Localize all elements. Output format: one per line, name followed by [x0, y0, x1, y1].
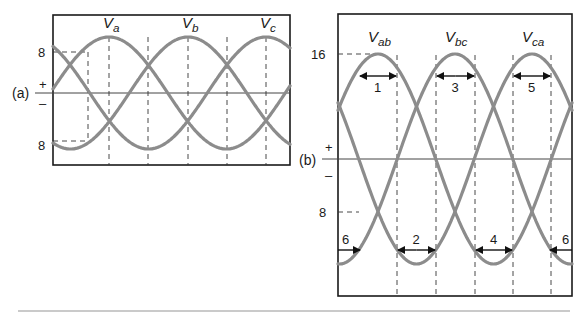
diagram-b-line-voltages: 1352466 (b) + – 16 8 VabVbcVca	[299, 14, 572, 296]
diagram-a-phase-voltages: (a) + – 8 8 VaVbVc	[12, 14, 290, 165]
label-vbc: Vbc	[445, 28, 468, 48]
svg-text:6: 6	[562, 232, 569, 247]
diagram-b-mid-value: 8	[319, 205, 326, 220]
interval-5: 5	[514, 76, 550, 95]
interval-2: 2	[398, 232, 435, 250]
interval-3: 3	[437, 76, 474, 95]
diagram-b-wave-labels: VabVbcVca	[368, 28, 545, 48]
interval-1: 1	[360, 76, 396, 95]
diagram-a-trough-value: 8	[38, 138, 45, 153]
interval-6: 6	[338, 232, 360, 250]
svg-text:2: 2	[413, 232, 420, 247]
label-vab: Vab	[368, 28, 392, 48]
diagram-b-plus-sign: +	[325, 140, 333, 155]
svg-text:3: 3	[452, 80, 459, 95]
svg-text:5: 5	[528, 80, 535, 95]
diagram-b-peak-value: 16	[311, 47, 325, 62]
diagram-a-peak-value: 8	[38, 45, 45, 60]
diagram-a-plus-sign: +	[39, 77, 47, 92]
svg-text:6: 6	[342, 232, 349, 247]
svg-text:1: 1	[374, 80, 381, 95]
interval-4: 4	[476, 232, 512, 250]
three-phase-waveform-figure: (a) + – 8 8 VaVbVc 1352466 (b) + – 16 8 …	[0, 0, 583, 315]
label-va: Va	[103, 14, 120, 34]
diagram-a-minus-sign: –	[39, 96, 47, 111]
interval-6: 6	[550, 232, 572, 250]
diagram-a-panel-label: (a)	[12, 85, 29, 101]
diagram-a-wave-labels: VaVbVc	[103, 14, 276, 34]
diagram-b-minus-sign: –	[325, 168, 333, 183]
diagram-b-panel-label: (b)	[299, 152, 316, 168]
label-vb: Vb	[182, 14, 199, 34]
label-vca: Vca	[522, 28, 545, 48]
svg-text:4: 4	[490, 232, 497, 247]
label-vc: Vc	[260, 14, 276, 34]
